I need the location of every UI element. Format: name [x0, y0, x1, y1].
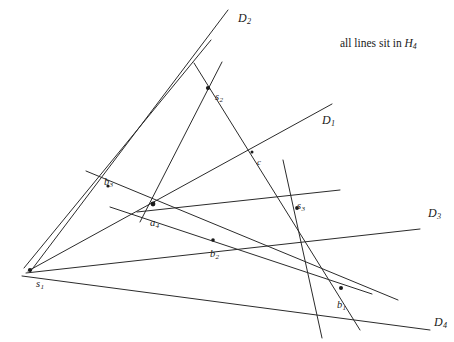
point-label-b1: b1: [337, 300, 346, 312]
line-label-D2: D2: [238, 12, 251, 26]
node-s2: [206, 86, 210, 90]
point-label-s2: s2: [215, 92, 223, 104]
plane-annotation: all lines sit in H4: [340, 37, 417, 51]
lines-group: [22, 10, 430, 338]
node-b1: [339, 286, 343, 290]
diagram-canvas: [0, 0, 454, 342]
point-label-c: c: [257, 158, 261, 167]
line-D3: [26, 229, 420, 273]
point-label-b2: b2: [210, 249, 219, 261]
node-s1: [28, 268, 32, 272]
node-c: [251, 151, 254, 154]
point-label-b3: b3: [104, 177, 113, 189]
point-label-a4: a4: [150, 218, 159, 230]
line-label-D3: D3: [428, 207, 441, 221]
line-D1: [28, 104, 332, 271]
line-D2: [30, 10, 228, 272]
line-a4-s3-right: [137, 190, 340, 212]
node-a4: [151, 202, 156, 207]
line-s1-a4-s2-top: [24, 40, 211, 268]
line-b3-a4-s3: [86, 171, 398, 300]
geometry-figure: s1s2s3a4b1b2b3cD2D1D3D4 all lines sit in…: [0, 0, 454, 342]
line-label-D4: D4: [434, 316, 447, 330]
node-b2: [211, 238, 215, 242]
line-D4: [22, 276, 430, 330]
nodes-group: [28, 86, 343, 290]
point-label-s1: s1: [36, 279, 44, 291]
point-label-s3: s3: [297, 201, 305, 213]
line-label-D1: D1: [322, 114, 335, 128]
